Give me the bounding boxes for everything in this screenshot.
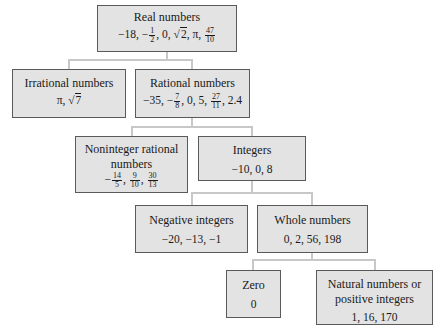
node-examples: −20, −13, −1 — [136, 232, 247, 246]
connector-to-negative — [191, 192, 193, 205]
node-natural-numbers: Natural numbers or positive integers 1, … — [316, 270, 433, 325]
node-title-line1: Natural numbers or — [317, 277, 432, 292]
connector-to-rational — [191, 59, 193, 69]
node-title-line2: numbers — [76, 157, 187, 172]
connector-to-whole — [311, 192, 313, 205]
node-examples: −18, −12, 0, √2, π, 4710 — [98, 27, 236, 44]
node-examples: π, √7 — [13, 93, 125, 107]
connector-to-natural — [374, 259, 376, 270]
connector-to-integers — [251, 126, 253, 136]
node-irrational-numbers: Irrational numbers π, √7 — [12, 69, 126, 118]
connector-integers-horizontal — [191, 192, 313, 194]
connector-whole-horizontal — [252, 259, 376, 261]
node-title: Integers — [199, 143, 305, 158]
node-title-line1: Noninteger rational — [76, 142, 187, 157]
node-real-numbers: Real numbers −18, −12, 0, √2, π, 4710 — [97, 5, 237, 52]
connector-real-horizontal — [68, 59, 193, 61]
node-title-line2: positive integers — [317, 292, 432, 307]
connector-to-irrational — [68, 59, 70, 69]
node-examples: −145, 910, 3013 — [76, 172, 187, 189]
connector-to-noninteger — [131, 126, 133, 136]
node-zero: Zero 0 — [226, 270, 281, 318]
node-integers: Integers −10, 0, 8 — [198, 136, 306, 181]
node-whole-numbers: Whole numbers 0, 2, 56, 198 — [257, 205, 368, 253]
node-examples: 0 — [227, 297, 280, 311]
node-title: Irrational numbers — [13, 76, 125, 91]
node-noninteger-rational-numbers: Noninteger rational numbers −145, 910, 3… — [75, 136, 188, 193]
node-examples: −35, −78, 0, 5, 2711, 2.4 — [136, 93, 249, 110]
node-examples: 1, 16, 170 — [317, 310, 432, 324]
node-title: Negative integers — [136, 213, 247, 228]
node-title: Real numbers — [98, 10, 236, 25]
node-title: Rational numbers — [136, 76, 249, 91]
node-title: Zero — [227, 278, 280, 293]
node-examples: −10, 0, 8 — [199, 162, 305, 176]
connector-rational-horizontal — [131, 126, 253, 128]
node-rational-numbers: Rational numbers −35, −78, 0, 5, 2711, 2… — [135, 69, 250, 118]
node-negative-integers: Negative integers −20, −13, −1 — [135, 205, 248, 253]
node-title: Whole numbers — [258, 213, 367, 228]
connector-to-zero — [252, 259, 254, 270]
node-examples: 0, 2, 56, 198 — [258, 232, 367, 246]
